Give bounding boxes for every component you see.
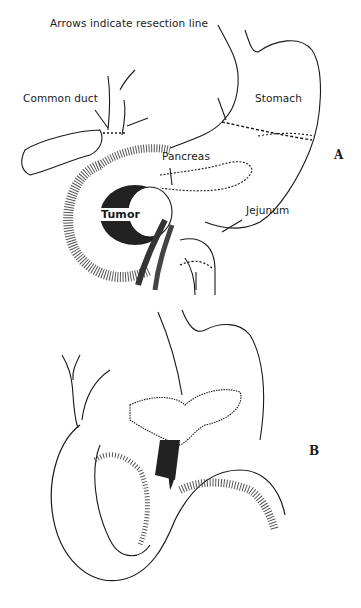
label-tumor: Tumor [99, 208, 142, 221]
caption-resection-line: Arrows indicate resection line [50, 17, 208, 29]
panel-label-a: A [334, 148, 343, 162]
label-jejunum: Jejunum [246, 204, 289, 216]
panel-label-b: B [309, 444, 319, 458]
label-common-duct: Common duct [23, 92, 98, 104]
label-pancreas: Pancreas [162, 150, 210, 162]
label-stomach: Stomach [255, 92, 302, 104]
